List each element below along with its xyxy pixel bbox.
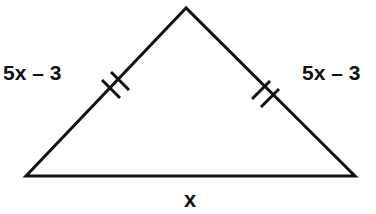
triangle: [26, 8, 355, 176]
right-side-label: 5x – 3: [302, 62, 360, 83]
base-label: x: [184, 189, 196, 211]
triangle-outline: [26, 8, 355, 176]
left-tick-2: [111, 72, 129, 90]
right-side-congruence-mark: [252, 81, 279, 107]
left-side-label: 5x – 3: [3, 62, 61, 83]
isosceles-triangle-diagram: [0, 0, 376, 214]
